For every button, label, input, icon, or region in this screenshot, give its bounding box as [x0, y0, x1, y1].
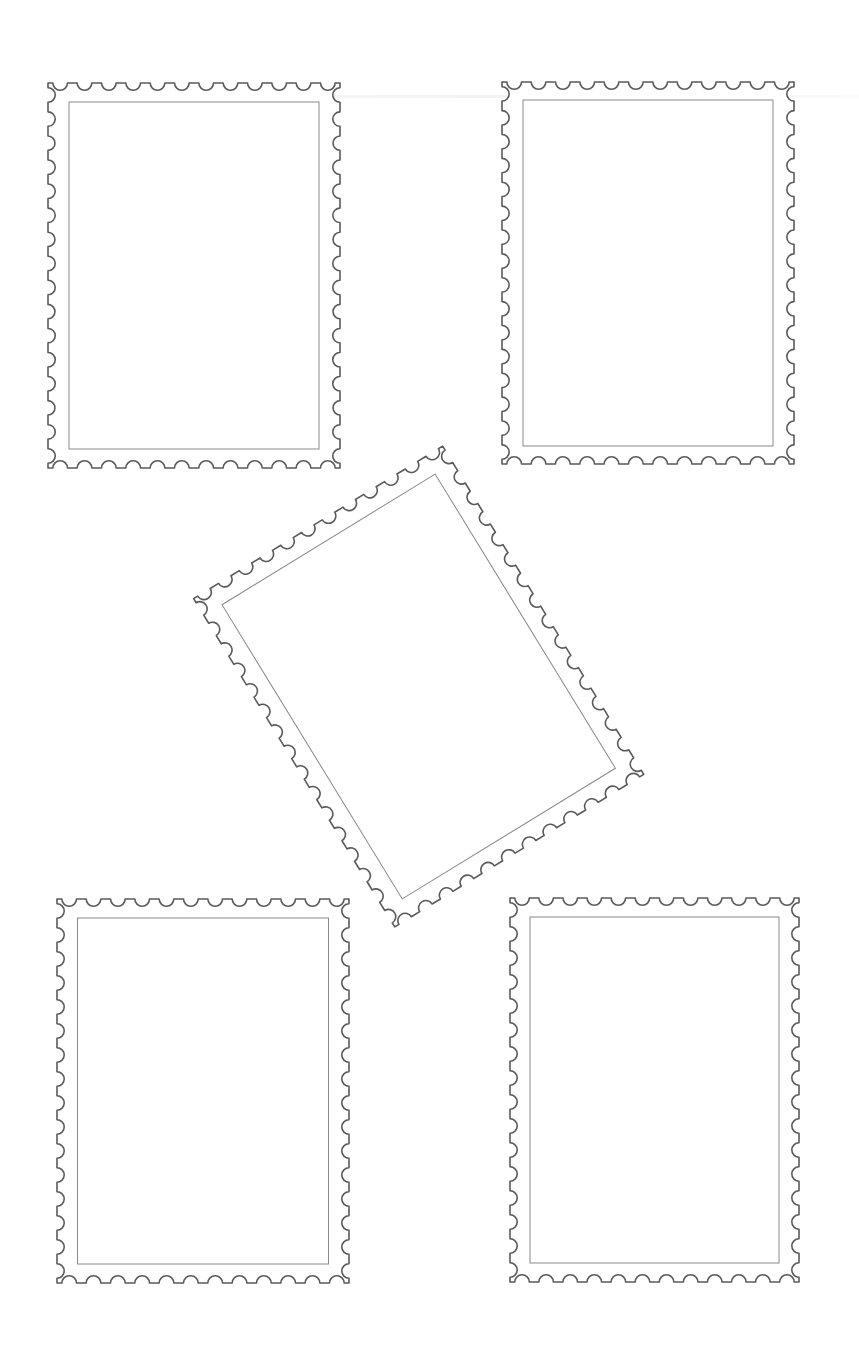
stamp-top-left: [48, 83, 340, 468]
stamp-bottom-left: [57, 899, 349, 1283]
perforated-border: [57, 899, 349, 1283]
perforated-border: [48, 83, 340, 468]
perforated-border: [502, 82, 794, 464]
stamp-center-tilted: [194, 446, 644, 927]
stamp-sheet: [0, 0, 859, 1368]
stamp-top-right: [502, 82, 794, 464]
stamp-bottom-right: [510, 898, 799, 1282]
perforated-border: [194, 446, 644, 927]
perforated-border: [510, 898, 799, 1282]
